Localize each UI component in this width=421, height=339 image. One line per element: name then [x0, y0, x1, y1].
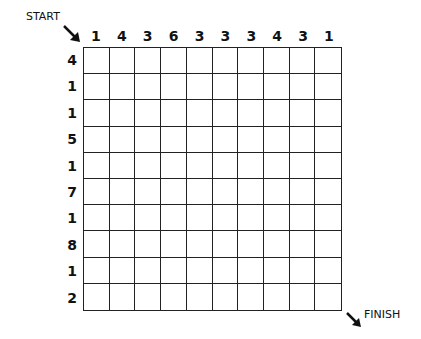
grid-cell[interactable] — [315, 100, 341, 126]
grid-cell[interactable] — [110, 258, 136, 284]
grid-cell[interactable] — [264, 127, 290, 153]
grid-cell[interactable] — [290, 179, 316, 205]
grid-cell[interactable] — [238, 258, 264, 284]
grid-cell[interactable] — [264, 100, 290, 126]
grid-cell[interactable] — [290, 231, 316, 257]
grid-cell[interactable] — [110, 284, 136, 310]
grid-cell[interactable] — [315, 127, 341, 153]
grid-cell[interactable] — [110, 179, 136, 205]
grid-cell[interactable] — [187, 258, 213, 284]
grid-cell[interactable] — [84, 284, 110, 310]
grid-cell[interactable] — [213, 231, 239, 257]
grid-cell[interactable] — [238, 74, 264, 100]
grid-cell[interactable] — [213, 100, 239, 126]
grid-cell[interactable] — [238, 179, 264, 205]
grid-cell[interactable] — [238, 153, 264, 179]
grid-cell[interactable] — [84, 153, 110, 179]
grid-cell[interactable] — [315, 74, 341, 100]
grid-cell[interactable] — [213, 258, 239, 284]
grid-cell[interactable] — [84, 100, 110, 126]
grid-cell[interactable] — [290, 48, 316, 74]
grid-cell[interactable] — [161, 100, 187, 126]
grid-cell[interactable] — [238, 100, 264, 126]
grid-cell[interactable] — [110, 74, 136, 100]
grid-cell[interactable] — [135, 231, 161, 257]
grid-cell[interactable] — [264, 284, 290, 310]
grid-cell[interactable] — [161, 231, 187, 257]
grid-cell[interactable] — [315, 231, 341, 257]
grid-cell[interactable] — [135, 205, 161, 231]
grid-cell[interactable] — [161, 127, 187, 153]
grid-cell[interactable] — [187, 205, 213, 231]
grid-cell[interactable] — [213, 74, 239, 100]
grid-cell[interactable] — [213, 48, 239, 74]
grid-cell[interactable] — [110, 231, 136, 257]
grid-cell[interactable] — [264, 258, 290, 284]
grid-cell[interactable] — [238, 48, 264, 74]
grid-cell[interactable] — [238, 231, 264, 257]
grid-cell[interactable] — [84, 179, 110, 205]
grid-cell[interactable] — [290, 100, 316, 126]
grid-cell[interactable] — [315, 48, 341, 74]
grid-cell[interactable] — [110, 127, 136, 153]
grid-cell[interactable] — [290, 205, 316, 231]
grid-cell[interactable] — [135, 179, 161, 205]
grid-cell[interactable] — [135, 48, 161, 74]
grid-cell[interactable] — [161, 74, 187, 100]
grid-cell[interactable] — [187, 48, 213, 74]
grid-cell[interactable] — [264, 231, 290, 257]
grid-cell[interactable] — [135, 284, 161, 310]
grid-cell[interactable] — [110, 153, 136, 179]
grid-cell[interactable] — [161, 205, 187, 231]
grid-cell[interactable] — [161, 258, 187, 284]
grid-cell[interactable] — [290, 127, 316, 153]
grid-cell[interactable] — [110, 205, 136, 231]
grid-cell[interactable] — [290, 153, 316, 179]
grid-cell[interactable] — [315, 205, 341, 231]
grid-cell[interactable] — [161, 153, 187, 179]
grid-cell[interactable] — [264, 74, 290, 100]
grid-cell[interactable] — [187, 231, 213, 257]
grid-cell[interactable] — [110, 100, 136, 126]
grid-cell[interactable] — [264, 179, 290, 205]
grid-cell[interactable] — [290, 258, 316, 284]
grid-cell[interactable] — [187, 74, 213, 100]
grid-cell[interactable] — [187, 153, 213, 179]
grid-cell[interactable] — [187, 179, 213, 205]
grid-cell[interactable] — [213, 127, 239, 153]
grid-cell[interactable] — [315, 284, 341, 310]
grid-cell[interactable] — [84, 74, 110, 100]
grid-cell[interactable] — [84, 127, 110, 153]
grid-cell[interactable] — [84, 231, 110, 257]
grid-cell[interactable] — [315, 153, 341, 179]
grid-cell[interactable] — [84, 258, 110, 284]
grid-cell[interactable] — [135, 153, 161, 179]
grid-cell[interactable] — [238, 127, 264, 153]
grid-cell[interactable] — [264, 48, 290, 74]
grid-cell[interactable] — [161, 48, 187, 74]
grid-cell[interactable] — [161, 179, 187, 205]
grid-cell[interactable] — [187, 100, 213, 126]
grid-cell[interactable] — [161, 284, 187, 310]
grid-cell[interactable] — [238, 205, 264, 231]
grid-cell[interactable] — [264, 153, 290, 179]
grid-cell[interactable] — [110, 48, 136, 74]
grid-cell[interactable] — [213, 179, 239, 205]
grid-cell[interactable] — [315, 179, 341, 205]
grid-cell[interactable] — [290, 284, 316, 310]
grid-cell[interactable] — [213, 205, 239, 231]
grid-cell[interactable] — [84, 205, 110, 231]
grid-cell[interactable] — [135, 100, 161, 126]
grid-cell[interactable] — [213, 153, 239, 179]
grid-cell[interactable] — [238, 284, 264, 310]
grid-cell[interactable] — [135, 74, 161, 100]
grid-cell[interactable] — [187, 127, 213, 153]
grid-cell[interactable] — [84, 48, 110, 74]
grid-cell[interactable] — [135, 258, 161, 284]
grid-cell[interactable] — [264, 205, 290, 231]
grid-cell[interactable] — [187, 284, 213, 310]
grid-cell[interactable] — [135, 127, 161, 153]
grid-cell[interactable] — [315, 258, 341, 284]
grid-cell[interactable] — [213, 284, 239, 310]
grid-cell[interactable] — [290, 74, 316, 100]
